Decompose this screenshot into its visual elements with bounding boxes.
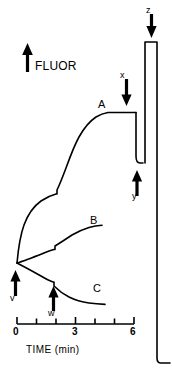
marker-label-w: w	[48, 309, 55, 318]
curve-label-c: C	[93, 283, 101, 294]
marker-x-arrow-icon	[121, 79, 131, 106]
marker-z-arrow-icon	[146, 14, 156, 38]
marker-label-y: y	[132, 192, 137, 201]
marker-label-v: v	[10, 294, 15, 303]
x-axis-tick-label-0: 0	[13, 327, 19, 337]
x-axis-tick-label-6: 6	[130, 327, 136, 337]
fluorescence-trace-figure: FLUOR A B C v w x y z 0 3 6 TIME (min)	[0, 0, 172, 370]
x-axis-title: TIME (min)	[26, 345, 79, 355]
fluor-arrow-icon	[22, 43, 33, 72]
curve-b-trace	[17, 225, 102, 263]
trace-canvas	[0, 0, 172, 370]
curve-label-a: A	[98, 99, 105, 110]
curve-label-b: B	[90, 215, 97, 226]
curve-c-trace	[17, 263, 105, 304]
curve-a-z-step-box	[145, 42, 170, 363]
x-axis	[17, 317, 134, 324]
curve-a-trace	[17, 113, 136, 264]
y-axis-label-fluor: FLUOR	[35, 60, 77, 72]
marker-label-z: z	[146, 6, 151, 15]
x-axis-tick-label-3: 3	[72, 327, 78, 337]
curve-a-drop-at-x	[136, 113, 143, 164]
marker-label-x: x	[120, 71, 125, 80]
